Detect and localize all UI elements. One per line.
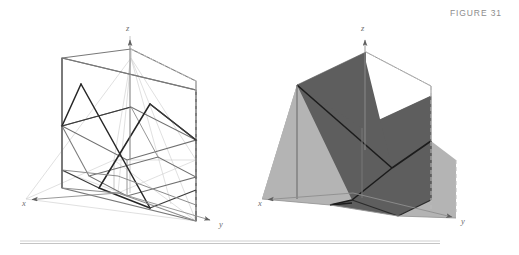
left-panel: x y z — [21, 23, 223, 229]
right-panel: x y z — [257, 23, 465, 226]
left-x-axis-label: x — [21, 198, 26, 208]
right-y-axis-label: y — [460, 216, 465, 226]
right-light-plane-right — [431, 141, 456, 205]
left-construction-lines — [26, 58, 196, 221]
left-y-axis-label: y — [218, 219, 223, 229]
right-x-axis-label: x — [257, 198, 262, 208]
figure-artwork: x y z — [0, 0, 519, 255]
figure-container: FIGURE 31 — [0, 0, 519, 255]
right-z-axis-label: z — [360, 23, 365, 33]
left-vertical-guides — [114, 36, 130, 193]
figure-caption: FIGURE 31 — [450, 8, 502, 18]
left-z-axis-label: z — [125, 23, 130, 33]
bottom-rule — [20, 241, 440, 244]
